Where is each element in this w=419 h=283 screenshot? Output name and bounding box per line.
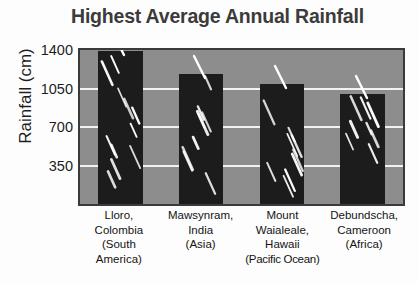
category-label-lloro-colombia: Lloro,Colombia(SouthAmerica) <box>78 208 160 283</box>
y-tick-label: 700 <box>28 120 73 135</box>
category-label-line: America) <box>78 252 160 267</box>
y-tick-label: 1400 <box>28 43 73 58</box>
category-label-line: (Africa) <box>323 237 405 252</box>
category-label-line: Waialeale, <box>242 223 324 238</box>
category-label-line: Debundscha, <box>323 208 405 223</box>
category-label-mount-waialeale-hawaii: MountWaialeale,Hawaii(Pacific Ocean) <box>242 208 324 283</box>
chart-title: Highest Average Annual Rainfall <box>71 3 419 29</box>
category-label-line: Mawsynram, <box>160 208 242 223</box>
category-label-debundscha-cameroon: Debundscha,Cameroon(Africa) <box>323 208 405 283</box>
x-axis-category-labels: Lloro,Colombia(SouthAmerica)Mawsynram,In… <box>78 208 405 283</box>
bar <box>340 94 384 204</box>
y-tick-label: 350 <box>28 159 73 174</box>
category-label-line: (Pacific Ocean) <box>242 252 324 267</box>
category-label-line: (South <box>78 237 160 252</box>
category-label-line: Mount <box>242 208 324 223</box>
category-label-line: Colombia <box>78 223 160 238</box>
category-label-line: Hawaii <box>242 237 324 252</box>
category-label-line: Cameroon <box>323 223 405 238</box>
y-axis-tick-labels: 14001050700350 <box>28 0 73 283</box>
bar <box>260 84 304 204</box>
bar <box>98 51 142 204</box>
category-label-line: India <box>160 223 242 238</box>
bar <box>179 74 223 204</box>
y-tick-label: 1050 <box>28 82 73 97</box>
plot-area <box>78 48 405 206</box>
category-label-line: Lloro, <box>78 208 160 223</box>
category-label-line: (Asia) <box>160 237 242 252</box>
category-label-mawsynram-india: Mawsynram,India(Asia) <box>160 208 242 283</box>
rainfall-bar-chart: Highest Average Annual Rainfall Rainfall… <box>0 0 419 283</box>
